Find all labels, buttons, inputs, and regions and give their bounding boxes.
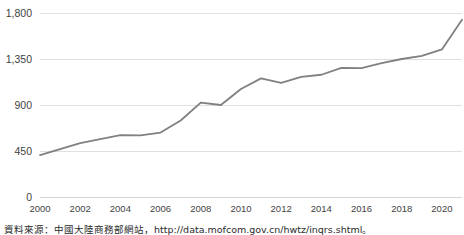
x-axis-tick-label: 2012 xyxy=(271,203,292,214)
y-axis-tick-label: 450 xyxy=(14,145,32,157)
y-axis-tick-label: 1,800 xyxy=(6,7,32,19)
source-note: 資料來源：中國大陸商務部網站，http://data.mofcom.gov.cn… xyxy=(4,224,460,235)
x-axis-tick-label: 2002 xyxy=(70,203,91,214)
y-axis-tick-label: 1,350 xyxy=(6,53,32,65)
x-axis-tick-label: 2006 xyxy=(150,203,171,214)
line-chart: 04509001,3501,800 2000200220042006200820… xyxy=(0,0,464,220)
y-axis-tick-label: 0 xyxy=(26,191,32,203)
chart-plot-area: 04509001,3501,800 2000200220042006200820… xyxy=(0,0,464,220)
y-axis-tick-labels: 04509001,3501,800 xyxy=(6,7,32,203)
x-axis-tick-label: 2014 xyxy=(311,203,332,214)
x-axis-tick-label: 2010 xyxy=(230,203,251,214)
y-axis-tick-label: 900 xyxy=(14,99,32,111)
x-axis-tick-label: 2018 xyxy=(391,203,412,214)
x-axis-tick-label: 2020 xyxy=(431,203,452,214)
x-axis-tick-label: 2008 xyxy=(190,203,211,214)
chart-figure: 04509001,3501,800 2000200220042006200820… xyxy=(0,0,464,235)
gridlines-group xyxy=(40,13,462,197)
x-axis-tick-labels: 2000200220042006200820102012201420162018… xyxy=(29,203,452,214)
x-axis-tick-label: 2016 xyxy=(351,203,372,214)
data-series-line xyxy=(40,20,462,155)
x-axis-tick-label: 2000 xyxy=(29,203,50,214)
x-axis-tick-label: 2004 xyxy=(110,203,131,214)
